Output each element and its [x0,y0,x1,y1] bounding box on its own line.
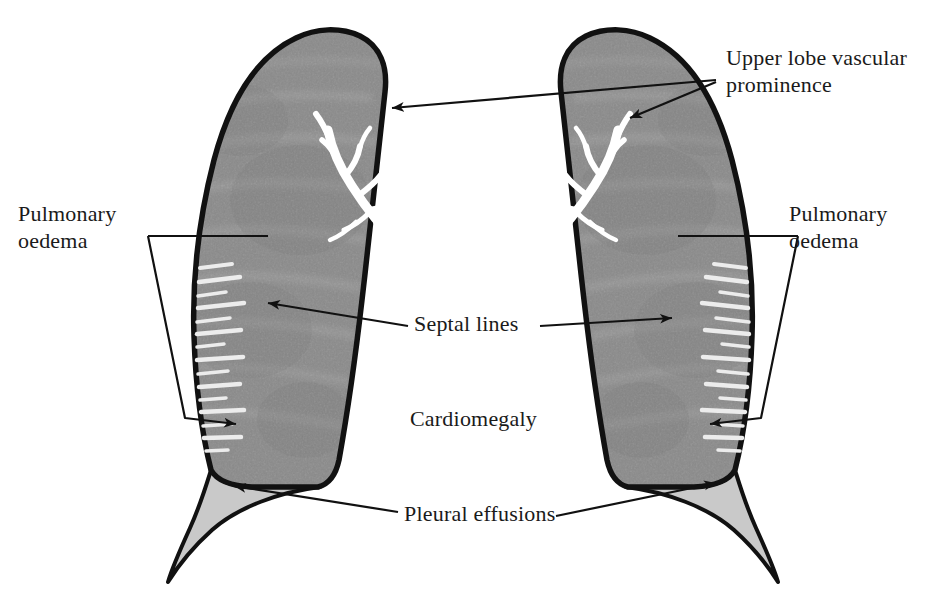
label-septal-lines: Septal lines [414,310,518,337]
label-upper-lobe-vascular-prominence: Upper lobe vascular prominence [726,44,907,98]
label-pulmonary-oedema-right: Pulmonary oedema [789,200,887,254]
left-lung-group [168,20,412,582]
label-pulmonary-oedema-left: Pulmonary oedema [18,200,116,254]
figure-canvas: Upper lobe vascular prominence Pulmonary… [0,0,946,610]
label-pleural-effusions: Pleural effusions [404,500,555,527]
left-lung-field [180,20,400,500]
label-cardiomegaly: Cardiomegaly [410,405,537,432]
right-lung-group [534,20,778,582]
